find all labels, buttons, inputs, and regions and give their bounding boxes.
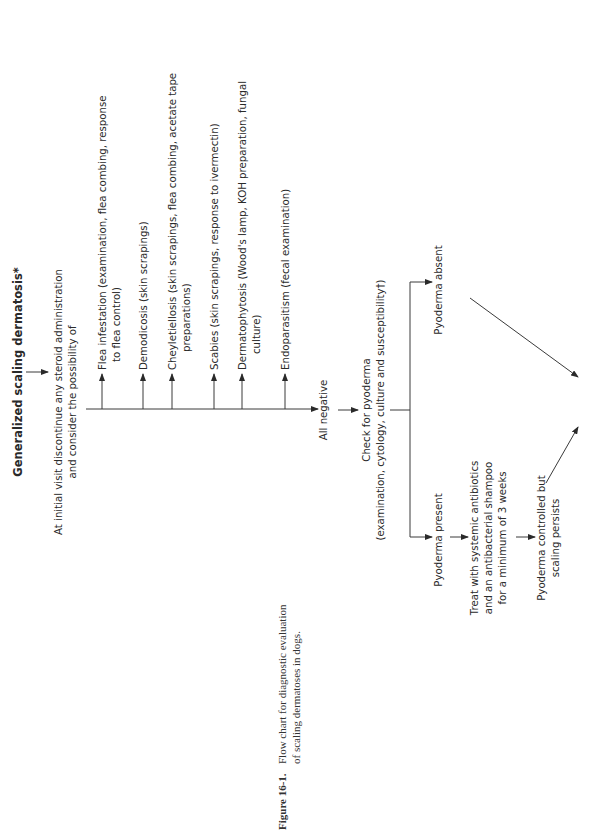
flowchart-diagram: Generalized scaling dermatosis* At initi… bbox=[0, 0, 600, 837]
possibility-demodicosis: Demodicosis (skin scrapings) bbox=[138, 221, 149, 370]
svg-text:Flea infestation (examination,: Flea infestation (examination, flea comb… bbox=[97, 95, 108, 370]
treat-line3: for a minimum of 3 weeks bbox=[497, 471, 508, 604]
svg-text:Demodicosis (skin scrapings): Demodicosis (skin scrapings) bbox=[138, 221, 149, 370]
figure-caption-line1: Flow chart for diagnostic evaluation bbox=[276, 604, 288, 764]
svg-text:Dermatophytosis (Wood's lamp,: Dermatophytosis (Wood's lamp, KOH prepar… bbox=[237, 81, 248, 370]
figure-label: Figure 16-1. bbox=[276, 773, 288, 830]
pyoderma-absent-node: Pyoderma absent bbox=[433, 245, 444, 334]
pyoderma-present-node: Pyoderma present bbox=[433, 493, 444, 586]
start-node-title: Generalized scaling dermatosis* bbox=[11, 267, 25, 477]
possibility-dermatophytosis: Dermatophytosis (Wood's lamp, KOH prepar… bbox=[237, 81, 262, 370]
check-pyoderma-line1: Check for pyoderma bbox=[361, 358, 372, 461]
all-negative-node: All negative bbox=[318, 380, 329, 440]
possibility-scabies: Scabies (skin scrapings, response to ive… bbox=[209, 123, 220, 370]
possibility-flea: Flea infestation (examination, flea comb… bbox=[97, 95, 122, 370]
svg-text:Endoparasitism (fecal examinat: Endoparasitism (fecal examination) bbox=[280, 189, 291, 370]
svg-text:Scabies (skin scrapings, respo: Scabies (skin scrapings, response to ive… bbox=[209, 123, 220, 370]
controlled-line2: scaling persists bbox=[550, 499, 561, 578]
controlled-line1: Pyoderma controlled but bbox=[536, 475, 547, 601]
svg-text:culture): culture) bbox=[251, 314, 262, 354]
treat-line1: Treat with systemic antibiotics bbox=[469, 461, 480, 617]
svg-text:preparations): preparations) bbox=[181, 283, 192, 352]
check-pyoderma-line2: (examination, cytology, culture and susc… bbox=[375, 279, 386, 540]
arrow-absent-converge bbox=[470, 298, 578, 377]
initial-step-line2: and consider the possibility of bbox=[67, 325, 78, 479]
treat-line2: and an antibacterial shampoo bbox=[483, 462, 494, 615]
possibility-cheyletiellosis: Cheyletiellosis (skin scrapings, flea co… bbox=[167, 73, 192, 370]
possibility-endoparasitism: Endoparasitism (fecal examination) bbox=[280, 189, 291, 370]
figure-caption-line2: of scaling dermatoses in dogs. bbox=[290, 631, 302, 764]
svg-text:Cheyletiellosis (skin scraping: Cheyletiellosis (skin scrapings, flea co… bbox=[167, 73, 178, 370]
svg-text:to flea control): to flea control) bbox=[111, 287, 122, 362]
arrow-controlled-converge bbox=[546, 427, 578, 483]
initial-step-line1: At initial visit discontinue any steroid… bbox=[53, 269, 64, 535]
